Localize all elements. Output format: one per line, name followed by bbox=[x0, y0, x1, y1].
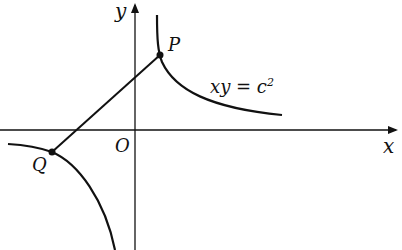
curve-equation-text: xy = c bbox=[210, 76, 267, 97]
hyperbola-upper-branch bbox=[157, 15, 282, 115]
y-axis-label: y bbox=[115, 1, 126, 21]
curve-equation-label: xy = c2 bbox=[210, 77, 274, 96]
curve-equation-exponent: 2 bbox=[267, 76, 274, 89]
origin-label: O bbox=[115, 137, 130, 155]
hyperbola-diagram bbox=[0, 0, 402, 250]
point-p-label: P bbox=[168, 36, 180, 54]
point-p bbox=[157, 52, 164, 59]
point-q bbox=[49, 149, 56, 156]
x-axis-label: x bbox=[383, 136, 394, 156]
hyperbola-lower-branch bbox=[8, 144, 115, 250]
point-q-label: Q bbox=[32, 156, 47, 174]
chord-pq bbox=[52, 55, 160, 152]
